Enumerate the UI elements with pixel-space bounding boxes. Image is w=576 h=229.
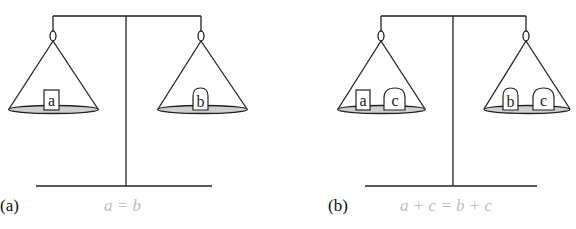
- scale-b-left-pan: [338, 106, 426, 114]
- panel-a-equation: a = b: [104, 196, 141, 216]
- weight-a-letter: a: [359, 92, 366, 109]
- weight-letters: a b a c b c: [48, 92, 547, 110]
- weight-b-letter: b: [197, 93, 205, 110]
- scale-b-right-hook-icon: [523, 31, 529, 41]
- scale-b-left-hook-icon: [378, 31, 384, 41]
- panel-b-label: (b): [328, 196, 348, 216]
- scale-a-right-hook-icon: [198, 31, 204, 41]
- weight-c-letter: c: [391, 92, 398, 109]
- scale-a-left-hook-icon: [50, 31, 56, 41]
- panel-a-label: (a): [0, 196, 19, 216]
- panel-b-equation: a + c = b + c: [400, 196, 492, 216]
- weight-a-letter: a: [48, 92, 55, 109]
- scale-b-right-pan: [484, 106, 570, 114]
- weight-c-letter: c: [540, 92, 547, 109]
- weight-b-letter: b: [507, 93, 515, 110]
- balance-scales-diagram: a b a c b c: [0, 0, 576, 229]
